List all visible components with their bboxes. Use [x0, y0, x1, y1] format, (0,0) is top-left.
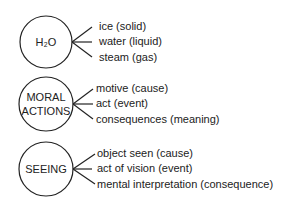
node-label: SEEING	[25, 163, 67, 175]
group-seeing: SEEING object seen (cause) act of vision…	[19, 142, 273, 196]
concept-diagram: H₂O ice (solid) water (liquid) steam (ga…	[0, 0, 290, 210]
branch-line	[72, 27, 92, 42]
branch-label: act (event)	[96, 97, 148, 109]
branch-line	[73, 104, 93, 119]
branch-line	[73, 89, 93, 104]
node-label: H₂O	[36, 36, 57, 48]
branch-label: consequences (meaning)	[96, 113, 220, 125]
branch-label: act of vision (event)	[97, 162, 192, 174]
group-moral-actions: MORAL ACTIONS motive (cause) act (event)…	[19, 77, 220, 131]
node-circle	[19, 77, 73, 131]
group-h2o: H₂O ice (solid) water (liquid) steam (ga…	[20, 16, 162, 68]
node-label-line2: ACTIONS	[22, 105, 71, 117]
branch-line	[73, 154, 95, 169]
branch-line	[73, 169, 95, 184]
node-label-line1: MORAL	[26, 91, 65, 103]
branch-label: ice (solid)	[99, 20, 146, 32]
branch-line	[72, 42, 92, 57]
branch-label: motive (cause)	[96, 82, 168, 94]
branch-label: object seen (cause)	[97, 147, 193, 159]
branch-label: mental interpretation (consequence)	[97, 178, 273, 190]
branch-label: water (liquid)	[98, 35, 162, 47]
branch-label: steam (gas)	[99, 51, 157, 63]
